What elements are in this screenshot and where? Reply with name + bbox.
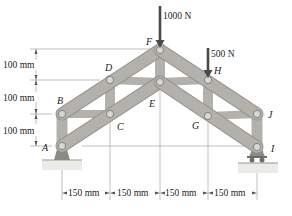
joint-label-C: C	[117, 122, 124, 132]
pin-C	[106, 110, 113, 117]
frame-diagram: 1000 N 500 N F D B A E C H J G I 100 mm …	[0, 0, 292, 216]
pin-D	[106, 76, 113, 83]
load-label-F: 1000 N	[163, 12, 191, 22]
joint-label-H: H	[214, 66, 221, 76]
dim-horizontal-4: 150 mm	[214, 189, 245, 199]
force-arrow-500N-shaft	[207, 48, 210, 72]
pin-G	[204, 112, 211, 119]
joint-label-I: I	[271, 144, 274, 154]
frame-drawing	[0, 0, 292, 216]
joint-label-B: B	[57, 96, 63, 106]
joint-label-E: E	[149, 99, 155, 109]
members	[62, 50, 257, 147]
joint-label-A: A	[42, 143, 48, 153]
pin-A	[58, 142, 65, 149]
pin-B	[58, 110, 65, 117]
dim-vertical-3: 100 mm	[3, 127, 34, 137]
dim-vertical-1: 100 mm	[3, 61, 34, 71]
dim-horizontal-1: 150 mm	[68, 189, 99, 199]
joint-label-J: J	[268, 110, 272, 120]
joint-label-D: D	[105, 63, 112, 73]
joint-label-F: F	[146, 37, 152, 47]
load-label-H: 500 N	[211, 50, 235, 60]
pin-E	[156, 78, 163, 85]
dim-vertical-2: 100 mm	[3, 94, 34, 104]
pin-J	[253, 110, 260, 117]
joint-label-G: G	[192, 121, 199, 131]
dim-horizontal-3: 150 mm	[165, 189, 196, 199]
force-arrow-1000N-shaft	[159, 6, 162, 42]
pin-I	[253, 143, 260, 150]
dim-horizontal-2: 150 mm	[117, 189, 148, 199]
